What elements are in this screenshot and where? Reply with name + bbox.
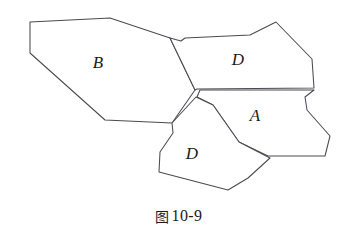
region-label-b: B <box>93 54 104 71</box>
figure-container: B D A D 图10-9 <box>0 0 357 242</box>
caption-cjk-char: 图 <box>155 209 169 225</box>
region-label-d-bottom: D <box>186 145 199 162</box>
region-label-d-top: D <box>232 51 245 68</box>
figure-caption: 图10-9 <box>0 206 357 226</box>
caption-number: 10-9 <box>172 207 203 224</box>
region-label-a: A <box>250 107 261 124</box>
region-b-shape <box>30 18 195 123</box>
